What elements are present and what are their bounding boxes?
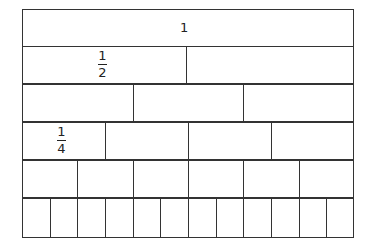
cell-1-12 (22, 198, 51, 238)
cell-1-12 (133, 198, 161, 238)
cell-1-4 (105, 122, 189, 160)
cell-half-2 (186, 46, 354, 84)
cell-1-12 (216, 198, 244, 238)
half-fraction-label: 1 2 (98, 49, 107, 80)
cell-1-6 (188, 160, 244, 198)
cell-1-12 (77, 198, 106, 238)
cell-1-12 (160, 198, 189, 238)
half-numerator: 1 (98, 49, 106, 63)
fraction-wall: 1 1 2 1 4 (22, 9, 354, 238)
quarter-numerator: 1 (57, 125, 65, 139)
cell-1-6 (299, 160, 354, 198)
row-quarters: 1 4 (22, 122, 354, 160)
row-twelfths (22, 198, 354, 238)
cell-1-3 (133, 84, 244, 122)
cell-1-6 (133, 160, 189, 198)
cell-1-12 (326, 198, 354, 238)
quarter-fraction-label: 1 4 (57, 125, 66, 156)
cell-1-3 (243, 84, 354, 122)
cell-1-12 (299, 198, 327, 238)
cell-1-4 (271, 122, 354, 160)
cell-1-6 (243, 160, 300, 198)
cell-1-4 (188, 122, 272, 160)
cell-1-3 (22, 84, 134, 122)
cell-1-12 (105, 198, 134, 238)
cell-1-12 (188, 198, 217, 238)
row-halves: 1 2 (22, 46, 354, 84)
row-thirds (22, 84, 354, 122)
cell-1-6 (22, 160, 78, 198)
whole-label: 1 (180, 20, 188, 35)
quarter-denominator: 4 (57, 142, 65, 156)
cell-1-6 (77, 160, 134, 198)
half-denominator: 2 (98, 66, 106, 80)
cell-1-12 (271, 198, 300, 238)
row-whole: 1 (22, 9, 354, 47)
row-sixths (22, 160, 354, 198)
cell-1-12 (50, 198, 78, 238)
cell-1-12 (243, 198, 272, 238)
